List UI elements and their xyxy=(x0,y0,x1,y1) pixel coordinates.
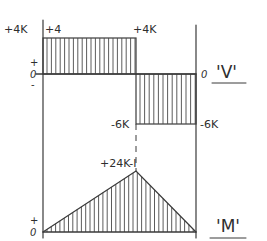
shear-left-value-label: +4K xyxy=(4,23,28,36)
moment-peak-label: +24K-I xyxy=(100,157,137,170)
shear-mid-bottom-label: -6K xyxy=(111,118,130,131)
shear-left-inner-label: +4 xyxy=(45,23,61,36)
moment-title: 'M' xyxy=(216,216,240,236)
moment-diagram: +24K-I + 0 'M' xyxy=(30,157,246,238)
shear-minus-sign: - xyxy=(31,79,35,90)
moment-zero-label: 0 xyxy=(30,227,36,238)
shear-moment-diagram: +4K +4 +4K + 0 - 0 -6K -6K 'V' +24K-I + … xyxy=(0,0,267,241)
shear-diagram: +4K +4 +4K + 0 - 0 -6K -6K 'V' xyxy=(4,23,246,131)
shear-zero-label-right: 0 xyxy=(201,69,207,80)
shear-right-value-label: -6K xyxy=(200,118,219,131)
shear-plus-sign: + xyxy=(30,57,38,68)
shear-negative-hatch xyxy=(140,74,195,124)
shear-positive-hatch xyxy=(47,38,135,74)
shear-mid-top-label: +4K xyxy=(133,23,157,36)
moment-curve xyxy=(43,171,196,232)
moment-plus-sign: + xyxy=(30,215,38,226)
shear-title: 'V' xyxy=(216,62,237,82)
